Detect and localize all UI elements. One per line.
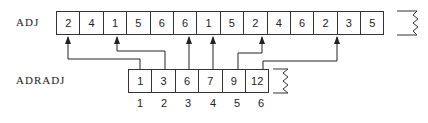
pointer-overlay	[0, 0, 428, 123]
pointer-arrow-6	[263, 37, 337, 69]
pointer-arrow-2	[117, 37, 165, 69]
adradj-continuation-jag	[273, 69, 288, 93]
pointer-arrow-1	[68, 37, 140, 69]
adj-continuation-jag	[397, 11, 418, 35]
pointer-arrow-5	[238, 37, 262, 69]
